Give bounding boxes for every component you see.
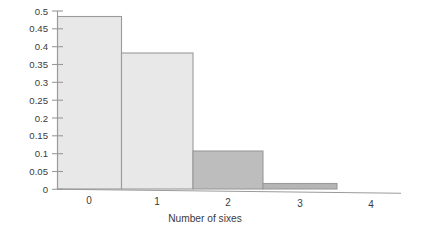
y-tick-label-0.05: 0.05 xyxy=(29,166,48,177)
bar-category-1 xyxy=(122,53,194,189)
chart-canvas: 0.5 0.45 0.4 0.35 0.3 0.25 0.2 0.15 0.1 … xyxy=(0,0,426,236)
y-tick-label-0.45: 0.45 xyxy=(29,23,48,34)
x-axis-title: Number of sixes xyxy=(168,213,242,224)
x-tick-label-0: 0 xyxy=(86,195,92,206)
x-tick-label-1: 1 xyxy=(154,196,160,207)
bar-category-0 xyxy=(58,17,122,190)
y-tick-label-0.35: 0.35 xyxy=(29,59,48,70)
y-tick-label-0.1: 0.1 xyxy=(35,148,48,159)
y-tick-label-0.4: 0.4 xyxy=(35,41,49,52)
y-tick-label-0.5: 0.5 xyxy=(35,6,48,17)
x-tick-label-4: 4 xyxy=(368,199,374,210)
y-tick-label-0.3: 0.3 xyxy=(35,77,48,88)
bar-category-2 xyxy=(193,151,263,189)
x-tick-label-3: 3 xyxy=(297,198,303,209)
histogram-chart: 0.5 0.45 0.4 0.35 0.3 0.25 0.2 0.15 0.1 … xyxy=(0,0,426,236)
y-tick-label-0.25: 0.25 xyxy=(29,95,48,106)
bar-category-3 xyxy=(263,184,337,190)
y-axis: 0.5 0.45 0.4 0.35 0.3 0.25 0.2 0.15 0.1 … xyxy=(29,6,63,195)
y-tick-label-0.2: 0.2 xyxy=(35,113,48,124)
y-tick-label-0.15: 0.15 xyxy=(29,130,48,141)
x-tick-label-2: 2 xyxy=(225,197,231,208)
y-tick-label-0: 0 xyxy=(43,184,48,195)
